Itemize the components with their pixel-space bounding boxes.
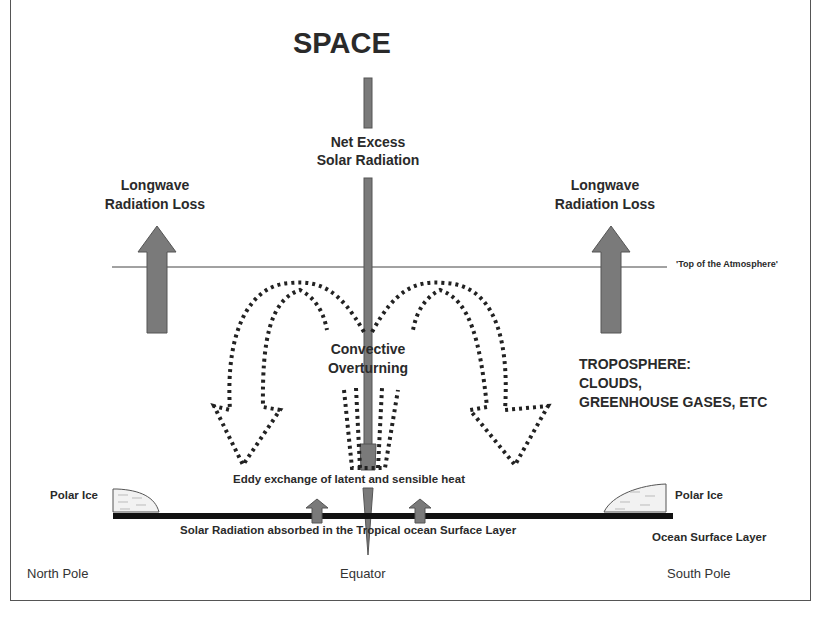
- longwave-arrow-right-shape: [592, 226, 630, 333]
- polar-ice-right-label: Polar Ice: [675, 489, 723, 501]
- net-solar-label-line1: Net Excess: [312, 133, 424, 151]
- top-of-atmosphere-label: 'Top of the Atmosphere': [676, 259, 778, 269]
- troposphere-line2: CLOUDS,: [579, 374, 767, 393]
- ocean-surface-layer-label: Ocean Surface Layer: [652, 531, 766, 543]
- equator-label: Equator: [340, 566, 386, 581]
- net-solar-label: Net Excess Solar Radiation: [312, 133, 424, 169]
- surface-heat-arrow-right: [409, 499, 431, 523]
- longwave-right-line1: Longwave: [535, 176, 675, 195]
- longwave-left-line1: Longwave: [85, 176, 225, 195]
- net-solar-beam: [364, 178, 372, 468]
- longwave-right-label: Longwave Radiation Loss: [535, 176, 675, 214]
- surface-absorption-label: Solar Radiation absorbed in the Tropical…: [180, 524, 516, 536]
- polar-ice-left: [113, 489, 159, 512]
- polar-ice-right: [604, 484, 666, 512]
- polar-ice-left-label: Polar Ice: [50, 489, 98, 501]
- surface-heat-arrow-left: [306, 499, 328, 523]
- troposphere-line1: TROPOSPHERE:: [579, 355, 767, 374]
- north-pole-label: North Pole: [27, 566, 88, 581]
- eddy-exchange-label: Eddy exchange of latent and sensible hea…: [233, 473, 465, 485]
- troposphere-label: TROPOSPHERE: CLOUDS, GREENHOUSE GASES, E…: [579, 355, 767, 412]
- convective-label: Convective Overturning: [320, 340, 416, 378]
- longwave-left-line2: Radiation Loss: [85, 195, 225, 214]
- space-title: SPACE: [293, 27, 391, 60]
- equator-spike: [363, 488, 373, 555]
- longwave-left-label: Longwave Radiation Loss: [85, 176, 225, 214]
- longwave-right-line2: Radiation Loss: [535, 195, 675, 214]
- south-pole-label: South Pole: [667, 566, 731, 581]
- convective-line2: Overturning: [320, 359, 416, 378]
- troposphere-line3: GREENHOUSE GASES, ETC: [579, 393, 767, 412]
- longwave-arrow-left-shape: [138, 226, 176, 333]
- net-solar-beam-upper: [364, 78, 372, 128]
- convective-line1: Convective: [320, 340, 416, 359]
- net-solar-label-line2: Solar Radiation: [312, 151, 424, 169]
- ocean-surface-layer: [113, 513, 673, 519]
